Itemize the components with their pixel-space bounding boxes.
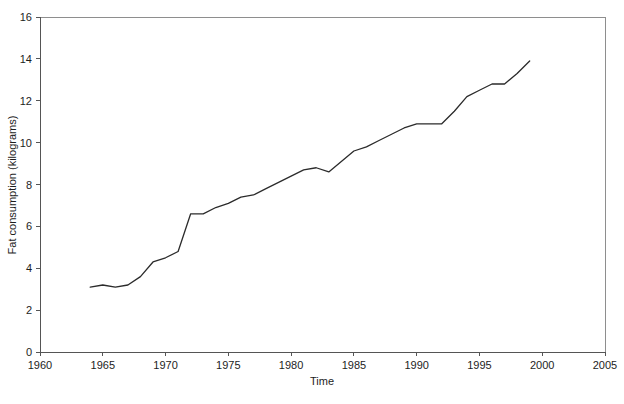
x-tick-label: 2000 bbox=[530, 359, 554, 371]
x-tick-label: 1970 bbox=[153, 359, 177, 371]
chart-container: 0246810121416 19601965197019751980198519… bbox=[0, 0, 624, 404]
line-chart: 0246810121416 19601965197019751980198519… bbox=[0, 0, 624, 404]
x-tick-label: 2005 bbox=[593, 359, 617, 371]
y-tick-label: 14 bbox=[20, 53, 32, 65]
x-tick-label: 1990 bbox=[404, 359, 428, 371]
x-tick-label: 1985 bbox=[342, 359, 366, 371]
x-axis-title: Time bbox=[310, 375, 334, 387]
y-tick-label: 4 bbox=[26, 262, 32, 274]
x-tick-label: 1965 bbox=[91, 359, 115, 371]
plot-area-background bbox=[40, 17, 605, 352]
y-axis-ticks: 0246810121416 bbox=[20, 11, 40, 358]
x-tick-label: 1975 bbox=[216, 359, 240, 371]
x-axis-ticks: 1960196519701975198019851990199520002005 bbox=[28, 352, 617, 371]
y-tick-label: 8 bbox=[26, 179, 32, 191]
y-tick-label: 0 bbox=[26, 346, 32, 358]
y-tick-label: 12 bbox=[20, 95, 32, 107]
y-axis-title: Fat consumption (kilograms) bbox=[6, 116, 18, 255]
y-tick-label: 6 bbox=[26, 220, 32, 232]
y-tick-label: 2 bbox=[26, 304, 32, 316]
x-tick-label: 1995 bbox=[467, 359, 491, 371]
y-tick-label: 16 bbox=[20, 11, 32, 23]
x-tick-label: 1960 bbox=[28, 359, 52, 371]
y-tick-label: 10 bbox=[20, 137, 32, 149]
x-tick-label: 1980 bbox=[279, 359, 303, 371]
